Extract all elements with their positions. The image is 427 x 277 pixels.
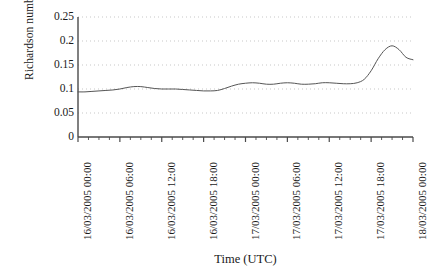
x-axis-tick-labels: 16/03/2005 00:0016/03/2005 06:0016/03/20… <box>0 0 427 277</box>
x-tick-label: 17/03/2005 18:00 <box>375 148 386 240</box>
x-tick-label: 16/03/2005 18:00 <box>208 148 219 240</box>
x-axis-title: Time (UTC) <box>78 252 413 267</box>
x-tick-label: 16/03/2005 00:00 <box>82 148 93 240</box>
x-tick-label: 18/03/2005 00:00 <box>417 148 427 240</box>
x-tick-label: 17/03/2005 12:00 <box>333 148 344 240</box>
x-tick-label: 17/03/2005 00:00 <box>250 148 261 240</box>
richardson-number-chart: Richardson number 0.25 0.2 0.15 0.1 0.05… <box>0 0 427 277</box>
x-tick-label: 16/03/2005 12:00 <box>166 148 177 240</box>
x-tick-label: 17/03/2005 06:00 <box>291 148 302 240</box>
x-tick-label: 16/03/2005 06:00 <box>124 148 135 240</box>
